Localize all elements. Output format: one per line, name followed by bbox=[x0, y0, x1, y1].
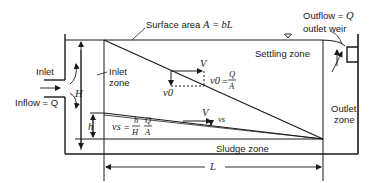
svg-text:Q: Q bbox=[145, 115, 151, 125]
svg-text:v0: v0 bbox=[210, 75, 221, 86]
surface-area-label: Surface area A = bL bbox=[146, 19, 233, 30]
inlet-label: Inlet bbox=[36, 66, 54, 77]
vs-arrow-label: vs bbox=[218, 114, 226, 124]
svg-text:=: = bbox=[124, 121, 130, 132]
v0-label: v0 bbox=[163, 87, 174, 98]
V-label-upper: V bbox=[200, 58, 208, 69]
outflow-label: Outflow = Q bbox=[303, 10, 354, 21]
svg-text:h: h bbox=[134, 115, 138, 125]
svg-text:=: = bbox=[222, 75, 228, 86]
outlet-zone-label-1: Outlet bbox=[331, 103, 357, 114]
L-label: L bbox=[209, 161, 216, 172]
svg-text:A: A bbox=[144, 127, 151, 137]
svg-text:H: H bbox=[131, 127, 139, 137]
svg-text:Q: Q bbox=[229, 69, 235, 79]
inflow-up-arrow bbox=[70, 64, 76, 84]
settling-zone-label: Settling zone bbox=[255, 48, 310, 59]
outlet-weir bbox=[347, 47, 358, 62]
settling-tank-diagram: Surface area A = bL Outflow = Q outlet w… bbox=[0, 0, 381, 183]
inlet-zone-label-1: Inlet bbox=[109, 66, 127, 77]
outlet-zone-label-2: zone bbox=[334, 114, 355, 125]
svg-text:A: A bbox=[228, 81, 235, 91]
sludge-zone-label: Sludge zone bbox=[216, 143, 269, 154]
svg-text:vs: vs bbox=[112, 121, 121, 132]
inflow-label: Inflow = Q bbox=[15, 97, 58, 108]
h-label: h bbox=[88, 121, 93, 132]
tank-walls bbox=[44, 34, 358, 154]
velocity-vectors-upper bbox=[171, 71, 204, 86]
outlet-arrows bbox=[332, 50, 342, 72]
outlet-weir-label: outlet weir bbox=[303, 23, 346, 34]
inlet-zone-label-2: zone bbox=[109, 77, 130, 88]
v0-equation: v0 = Q A bbox=[210, 69, 236, 91]
V-label-lower: V bbox=[202, 107, 210, 118]
H-label: H bbox=[74, 88, 84, 99]
water-surface-icon bbox=[285, 34, 292, 38]
